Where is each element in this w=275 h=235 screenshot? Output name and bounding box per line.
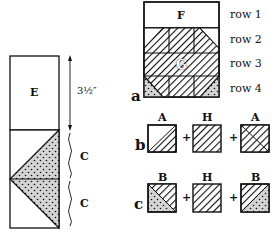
label-step-c: c — [134, 197, 143, 212]
plus-b-1: + — [182, 132, 191, 143]
label-piece-h-c: H — [202, 172, 212, 183]
label-piece-a-left: A — [158, 112, 167, 123]
label-measure: 3½″ — [77, 86, 97, 96]
label-row-3: row 3 — [230, 58, 262, 69]
label-piece-h-b: H — [202, 112, 212, 123]
step-c — [148, 184, 269, 212]
label-step-b: b — [135, 138, 146, 153]
label-step-a: a — [131, 89, 141, 104]
piece-h-b — [193, 125, 221, 152]
brace-bottom — [69, 181, 72, 226]
label-block-e: E — [30, 87, 38, 98]
label-block-f: F — [177, 10, 185, 21]
piece-h-c — [193, 184, 221, 212]
label-c-bottom: C — [80, 198, 89, 209]
plus-b-2: + — [229, 132, 238, 143]
plus-c-2: + — [229, 192, 238, 203]
label-c-top: C — [80, 151, 89, 162]
label-piece-b-left: B — [158, 172, 167, 183]
label-row-2: row 2 — [230, 34, 262, 45]
left-strip — [10, 55, 72, 228]
plus-c-1: + — [182, 192, 191, 203]
measure-arrow — [68, 55, 72, 131]
brace-top — [69, 133, 72, 178]
label-row-4: row 4 — [230, 83, 262, 94]
step-b — [148, 125, 269, 152]
label-row-1: row 1 — [230, 9, 262, 20]
label-piece-a-right: A — [251, 112, 260, 123]
label-piece-b-right: B — [251, 172, 260, 183]
label-block-g: G — [176, 58, 187, 71]
